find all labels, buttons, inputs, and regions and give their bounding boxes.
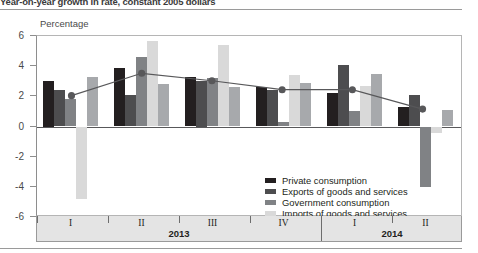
x-axis-year-label: 2014 bbox=[381, 228, 402, 239]
gdp-marker bbox=[68, 92, 75, 99]
y-axis-tick-label: -4 bbox=[2, 180, 24, 191]
y-axis-label: Percentage bbox=[40, 18, 89, 29]
x-axis-tick bbox=[392, 216, 393, 223]
x-axis-year-label: 2013 bbox=[168, 228, 189, 239]
bottom-rule bbox=[0, 248, 462, 249]
chart-subtitle: Year-on-year growth in rate, constant 20… bbox=[0, 0, 215, 7]
legend-label: Private consumption bbox=[282, 175, 367, 186]
legend-swatch-private-consumption bbox=[265, 178, 276, 183]
legend-item: Private consumption bbox=[265, 175, 408, 186]
x-axis-quarter-label: I bbox=[353, 218, 356, 228]
y-axis-tick-label: 0 bbox=[2, 120, 24, 131]
x-axis-band: IIIIIIIV2013III2014 bbox=[36, 216, 462, 242]
x-axis-tick bbox=[179, 216, 180, 223]
y-axis-tick-label: 6 bbox=[2, 30, 24, 41]
x-axis-tick bbox=[37, 216, 38, 223]
x-axis-quarter-label: II bbox=[138, 218, 144, 228]
x-axis-tick bbox=[250, 216, 251, 223]
y-axis-tick-label: -2 bbox=[2, 150, 24, 161]
gdp-marker bbox=[419, 106, 426, 113]
legend-swatch-government-consumption bbox=[265, 200, 276, 205]
gdp-line bbox=[71, 73, 422, 109]
x-axis-quarter-label: II bbox=[422, 218, 428, 228]
gdp-marker bbox=[349, 86, 356, 93]
legend-label: Government consumption bbox=[282, 197, 389, 208]
y-axis-tick-label: 2 bbox=[2, 90, 24, 101]
x-axis-tick bbox=[108, 216, 109, 223]
gdp-marker bbox=[138, 70, 145, 77]
x-axis-quarter-label: III bbox=[208, 218, 218, 228]
gdp-marker bbox=[208, 77, 215, 84]
x-axis-quarter-label: I bbox=[69, 218, 72, 228]
plot-area: Private consumption Exports of goods and… bbox=[36, 35, 462, 216]
gdp-marker bbox=[279, 86, 286, 93]
legend-swatch-exports bbox=[265, 189, 276, 194]
y-axis-tick-label: 4 bbox=[2, 60, 24, 71]
x-axis-quarter-label: IV bbox=[278, 218, 288, 228]
legend-item: Exports of goods and services bbox=[265, 186, 408, 197]
legend-label: Exports of goods and services bbox=[282, 186, 408, 197]
top-rule bbox=[0, 9, 462, 10]
legend-item: Government consumption bbox=[265, 197, 408, 208]
y-axis-tick-label: -6 bbox=[2, 211, 24, 222]
x-axis-year-separator bbox=[321, 216, 322, 241]
